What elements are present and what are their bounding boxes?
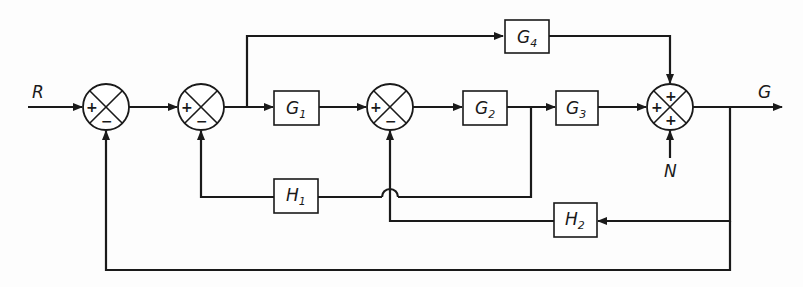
input-label: R — [32, 82, 44, 102]
summing-junction-2: + − — [178, 84, 224, 130]
minus-sign: − — [196, 113, 208, 129]
block-H1: H1 — [274, 179, 318, 213]
summing-junction-3: + − — [367, 84, 413, 130]
summing-junction-4: + + + — [647, 84, 693, 130]
block-G1: G1 — [274, 91, 319, 125]
plus-sign: + — [665, 88, 677, 104]
block-G3: G3 — [556, 91, 598, 125]
wire-h2-s3 — [390, 131, 554, 221]
minus-sign: − — [385, 113, 397, 129]
output-signal-G: G — [693, 82, 782, 107]
input-signal-R: R — [28, 82, 82, 107]
disturbance-signal-N: N — [664, 131, 677, 181]
plus-sign: + — [86, 99, 98, 115]
block-H2: H2 — [554, 203, 597, 237]
block-G4: G4 — [505, 20, 549, 53]
plus-sign: + — [181, 99, 193, 115]
output-label: G — [758, 82, 771, 102]
disturbance-label: N — [664, 161, 677, 181]
wire-g4-s4 — [549, 36, 670, 83]
wire-unity-feedback — [106, 131, 730, 270]
plus-sign: + — [665, 112, 677, 128]
wire-h1-s2 — [201, 131, 274, 197]
minus-sign: − — [101, 113, 113, 129]
block-G2: G2 — [463, 91, 507, 125]
plus-sign: + — [370, 99, 382, 115]
plus-sign: + — [651, 99, 663, 115]
summing-junction-1: + − — [83, 84, 129, 130]
block-diagram: R + − + − G1 + − G2 — [0, 0, 803, 287]
